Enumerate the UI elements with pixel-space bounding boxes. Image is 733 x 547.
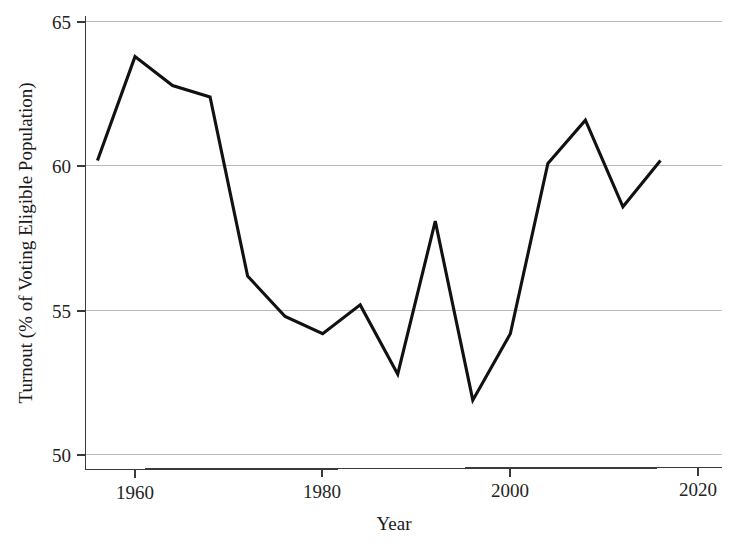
y-tick-labels: 65 60 55 50 bbox=[52, 12, 71, 466]
y-axis-title: Turnout (% of Voting Eligible Population… bbox=[15, 82, 37, 403]
gridline-50 bbox=[85, 454, 722, 455]
gridline-55 bbox=[85, 310, 722, 311]
axis-spines bbox=[85, 16, 722, 470]
x-tick-label-1960: 1960 bbox=[116, 482, 154, 503]
chart-figure: 65 60 55 50 1960 1980 2000 2020 Year Tur… bbox=[0, 0, 733, 547]
line-chart-canvas: 65 60 55 50 1960 1980 2000 2020 Year Tur… bbox=[0, 0, 733, 547]
y-tick-marks bbox=[77, 22, 86, 455]
x-tick-label-2000: 2000 bbox=[491, 480, 529, 501]
x-tick-labels: 1960 1980 2000 2020 bbox=[116, 479, 717, 503]
y-tick-label-65: 65 bbox=[52, 12, 71, 33]
x-axis-title: Year bbox=[376, 513, 412, 534]
turnout-line-series bbox=[97, 57, 660, 401]
y-tick-label-55: 55 bbox=[52, 301, 71, 322]
x-tick-label-2020: 2020 bbox=[679, 479, 717, 500]
gridline-60 bbox=[85, 165, 722, 166]
y-tick-label-60: 60 bbox=[52, 156, 71, 177]
x-axis-spine bbox=[85, 468, 722, 470]
gridlines bbox=[85, 21, 722, 455]
x-tick-label-1980: 1980 bbox=[303, 481, 341, 502]
y-tick-label-50: 50 bbox=[52, 445, 71, 466]
gridline-65 bbox=[85, 21, 722, 22]
